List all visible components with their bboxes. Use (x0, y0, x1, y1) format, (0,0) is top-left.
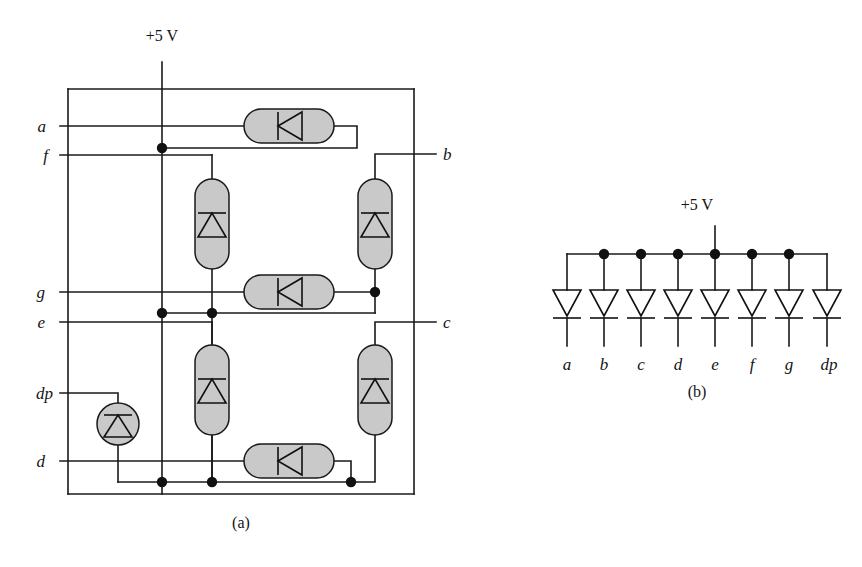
segment-label-f: f (43, 146, 50, 165)
diode-a-package (244, 109, 334, 143)
segment-label-d: d (37, 452, 46, 471)
panel-b-caption: (b) (688, 383, 707, 401)
segment-label-a: a (38, 117, 47, 136)
pin-label-f: f (750, 355, 757, 374)
supply-label-a: +5 V (146, 27, 179, 44)
lead-c-bottom (351, 435, 375, 482)
figure-container: +5 V a f g e dp d b c (a) (0, 0, 862, 567)
diode-column-e (701, 254, 729, 346)
net-c (375, 322, 436, 345)
diode-column-d (664, 254, 692, 346)
diode-f-package (195, 179, 229, 269)
panel-a-caption: (a) (232, 514, 250, 532)
net-f (60, 155, 212, 179)
diode-column-g (775, 254, 803, 346)
segment-label-dp: dp (36, 384, 53, 403)
pin-label-b: b (600, 355, 609, 374)
diode-e-package (195, 345, 229, 435)
supply-label-b: +5 V (681, 196, 714, 213)
diode-column-dp (813, 254, 841, 346)
pin-label-a: a (563, 355, 572, 374)
pin-label-dp: dp (821, 355, 838, 374)
segment-label-c: c (443, 313, 451, 332)
pin-label-d: d (674, 355, 683, 374)
diode-column-b (590, 254, 618, 346)
diode-g-package (244, 275, 334, 309)
diode-c-package (358, 345, 392, 435)
pin-label-c: c (637, 355, 645, 374)
diode-column-a (553, 254, 581, 346)
junction-dots-a (157, 143, 380, 487)
net-e (60, 322, 212, 345)
segment-label-e: e (37, 313, 45, 332)
segment-label-g: g (37, 283, 46, 302)
diode-column-f (738, 254, 766, 346)
panel-a: +5 V a f g e dp d b c (a) (36, 27, 452, 532)
pin-label-g: g (785, 355, 794, 374)
pin-label-e: e (711, 355, 719, 374)
segment-label-b: b (443, 145, 452, 164)
circuit-diagram-svg: +5 V a f g e dp d b c (a) (0, 0, 862, 567)
led-dp-package (97, 403, 139, 445)
panel-b: +5 V a b c d e f g dp (b) (553, 196, 841, 401)
net-b (375, 154, 436, 179)
diode-d-package (244, 444, 334, 478)
diode-b-package (358, 179, 392, 269)
diode-column-c (627, 254, 655, 346)
